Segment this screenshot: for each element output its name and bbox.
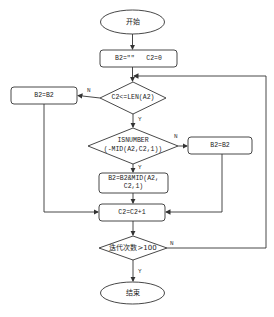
len-no-label: N <box>87 87 91 94</box>
iter-condition-label: 迭代次数>100 <box>99 244 167 252</box>
end-label: 结束 <box>100 289 165 297</box>
flowchart-shapes <box>0 0 274 317</box>
isnumber-yes-label: Y <box>138 164 142 171</box>
concat-label-1: B2=B2&MID(A2, <box>99 175 168 183</box>
concat-label-2: C2,1) <box>99 183 168 191</box>
init-label: B2="" C2=0 <box>100 55 177 63</box>
len-yes-label: Y <box>138 116 142 123</box>
isnumber-no-label: N <box>174 133 178 140</box>
isnumber-label-1: ISNUMBER <box>88 137 178 145</box>
iter-no-label: N <box>170 240 174 247</box>
flowchart-canvas: 开始 B2="" C2=0 C2<=LEN(A2) B2=B2 ISNUMBER… <box>0 0 274 317</box>
iter-yes-label: Y <box>138 268 142 275</box>
left-b2-label: B2=B2 <box>11 92 77 100</box>
isnumber-label-2: (-MID(A2,C2,1)) <box>88 146 178 154</box>
start-label: 开始 <box>100 18 165 26</box>
increment-label: C2=C2+1 <box>99 209 165 217</box>
right-b2-label: B2=B2 <box>188 142 252 150</box>
len-condition-label: C2<=LEN(A2) <box>100 94 166 102</box>
